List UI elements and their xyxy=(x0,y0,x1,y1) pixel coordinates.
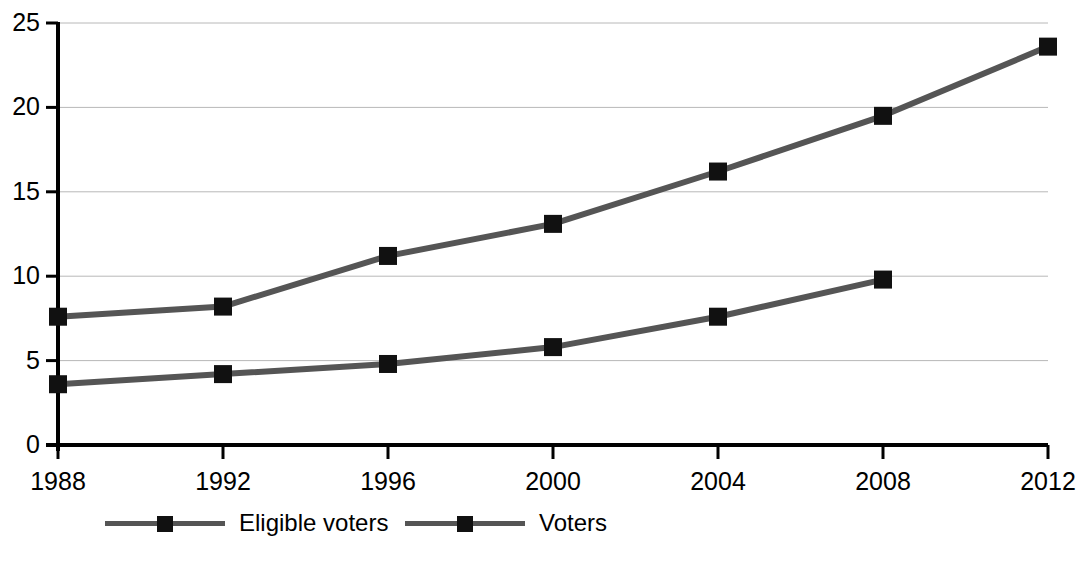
data-point-marker xyxy=(544,338,562,356)
x-tick-label: 1988 xyxy=(0,469,118,494)
x-tick-label: 2012 xyxy=(988,469,1080,494)
data-point-marker xyxy=(49,308,67,326)
x-tick-label: 2004 xyxy=(658,469,778,494)
series-line-voters xyxy=(58,280,883,385)
x-tick-label: 2000 xyxy=(493,469,613,494)
data-point-marker xyxy=(709,308,727,326)
data-point-marker xyxy=(214,365,232,383)
chart-legend: Eligible voters Voters xyxy=(0,505,1072,555)
x-tick-label: 1992 xyxy=(163,469,283,494)
y-tick-label: 25 xyxy=(0,10,40,35)
legend-label-eligible-voters: Eligible voters xyxy=(239,509,388,537)
data-point-marker xyxy=(544,215,562,233)
x-tick-label: 2008 xyxy=(823,469,943,494)
legend-line-swatch-eligible-voters xyxy=(105,512,225,534)
y-tick-label: 20 xyxy=(0,94,40,119)
legend-item-eligible-voters[interactable]: Eligible voters xyxy=(105,509,388,537)
chart-canvas xyxy=(0,0,1072,470)
data-point-marker xyxy=(379,247,397,265)
y-tick-label: 0 xyxy=(0,432,40,457)
data-point-marker xyxy=(49,375,67,393)
data-point-marker xyxy=(214,298,232,316)
legend-line-swatch-voters xyxy=(405,512,525,534)
data-point-marker xyxy=(874,107,892,125)
data-point-marker xyxy=(379,355,397,373)
legend-label-voters: Voters xyxy=(539,509,607,537)
y-tick-label: 5 xyxy=(0,348,40,373)
data-point-marker xyxy=(1039,38,1057,56)
legend-item-voters[interactable]: Voters xyxy=(405,509,607,537)
data-point-marker xyxy=(709,163,727,181)
data-point-marker xyxy=(874,271,892,289)
plot-area: 0510152025 1988199219962000200420082012 xyxy=(0,0,1072,470)
x-tick-label: 1996 xyxy=(328,469,448,494)
y-tick-label: 15 xyxy=(0,179,40,204)
y-tick-label: 10 xyxy=(0,263,40,288)
